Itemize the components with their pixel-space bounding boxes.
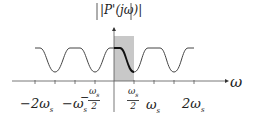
- tick-label-neg-ws-half: ωs 2: [88, 86, 100, 111]
- spectrum-curve-left: [35, 48, 114, 72]
- y-axis-label: |P'(jω)|: [100, 3, 142, 17]
- tick-label-2ws: 2ωs: [182, 96, 204, 114]
- x-axis-label: ω: [230, 73, 242, 91]
- x-axis-arrow-icon: [225, 79, 229, 83]
- shaded-band: [114, 36, 134, 81]
- periodic-spectrum-diagram: |P'(jω)| ω −2ωs −ωs − ωs 2 ωs 2 ωs 2ωs: [0, 0, 253, 125]
- spectrum-curve-right: [134, 48, 194, 72]
- tick-label-neg-2ws: −2ωs: [20, 96, 53, 114]
- tick-label-ws: ωs: [146, 97, 160, 115]
- tick-label-pos-ws-half: ωs 2: [127, 86, 139, 111]
- y-axis-arrow-icon: [112, 27, 116, 31]
